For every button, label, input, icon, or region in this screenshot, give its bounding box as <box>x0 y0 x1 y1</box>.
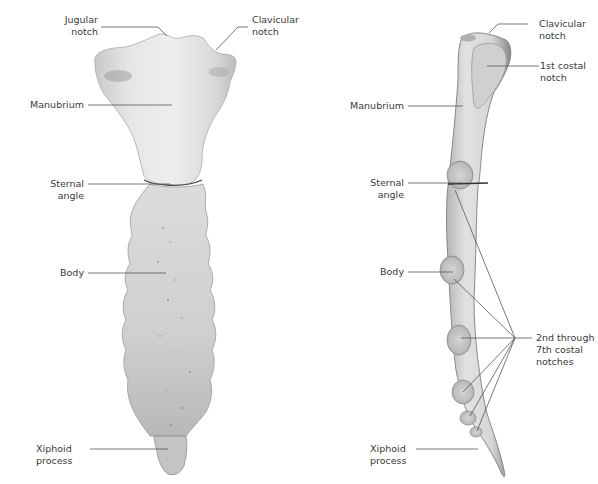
costal-notch-3 <box>440 256 464 284</box>
label-clavicular-notch-lateral: Clavicular notch <box>539 18 598 42</box>
sternum-figure: Jugular notch Clavicular notch Manubrium… <box>0 0 598 484</box>
sternum-illustration <box>0 0 598 484</box>
lateral-sternum <box>440 33 511 477</box>
anterior-sternum <box>95 34 236 475</box>
label-xiphoid-anterior: Xiphoid process <box>36 443 96 467</box>
label-manubrium-lateral: Manubrium <box>330 100 404 112</box>
costal-notch-7 <box>470 427 482 437</box>
clavicular-notch-facet <box>460 35 476 42</box>
label-xiphoid-lateral: Xiphoid process <box>370 443 430 467</box>
label-body-anterior: Body <box>14 267 84 279</box>
label-jugular-notch: Jugular notch <box>30 14 98 38</box>
label-first-costal-notch: 1st costal notch <box>540 60 598 84</box>
shadow <box>209 67 229 77</box>
shadow <box>104 70 132 82</box>
label-manubrium-anterior: Manubrium <box>10 99 84 111</box>
label-sternal-angle-anterior: Sternal angle <box>14 178 84 202</box>
label-clavicular-notch-anterior: Clavicular notch <box>252 14 332 38</box>
label-sternal-angle-lateral: Sternal angle <box>334 177 404 201</box>
costal-notch-2 <box>447 161 473 189</box>
manubrium-anterior <box>95 34 236 185</box>
xiphoid-anterior <box>154 436 187 475</box>
costal-notch-4 <box>447 325 471 355</box>
body-anterior <box>122 184 216 436</box>
label-costal-notches: 2nd through 7th costal notches <box>536 332 598 368</box>
costal-notch-6 <box>460 411 476 425</box>
label-body-lateral: Body <box>334 266 404 278</box>
